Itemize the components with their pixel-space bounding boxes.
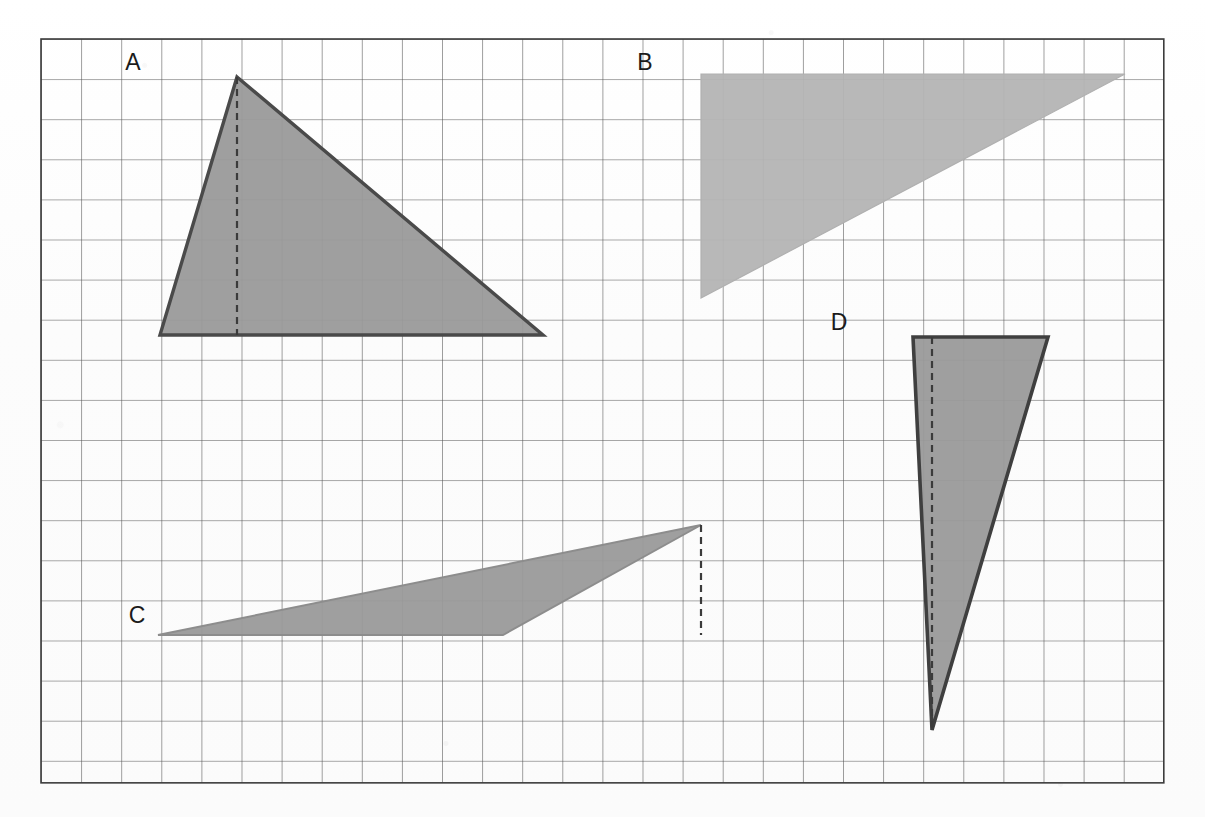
- worksheet-page: A B C D: [0, 0, 1205, 817]
- grid-triangles-figure: A B C D: [0, 0, 1205, 817]
- shape-label-b: B: [637, 49, 652, 75]
- shape-label-d: D: [831, 309, 848, 335]
- shape-label-c: C: [129, 602, 146, 628]
- shape-label-a: A: [125, 49, 141, 75]
